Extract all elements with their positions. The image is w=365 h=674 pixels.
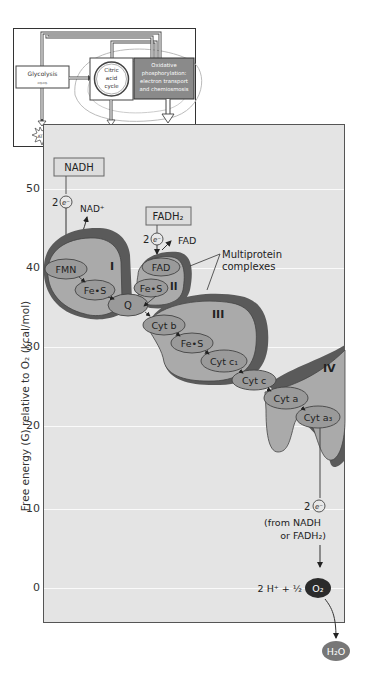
svg-text:I: I <box>110 260 114 273</box>
svg-text:e⁻: e⁻ <box>62 199 70 207</box>
svg-text:Fe•S: Fe•S <box>181 338 203 349</box>
from-label-line2: or FADH₂) <box>280 530 326 541</box>
svg-text:Q: Q <box>124 300 132 311</box>
multiprotein-label-line1: Multiprotein <box>222 249 282 260</box>
svg-text:FAD: FAD <box>178 235 196 246</box>
svg-text:II: II <box>170 281 177 292</box>
svg-text:NADH: NADH <box>64 162 94 173</box>
electron-transport-chain: NADH 2 e⁻ NAD⁺ I FMN Fe•S FADH₂ 2 e⁻ FAD… <box>0 0 365 674</box>
oxygen-equation: 2 H⁺ + ½ <box>258 583 302 594</box>
svg-text:e⁻: e⁻ <box>315 503 323 511</box>
svg-text:FADH₂: FADH₂ <box>153 211 184 222</box>
svg-text:2: 2 <box>304 501 310 512</box>
svg-text:Cyt c₁: Cyt c₁ <box>210 356 238 367</box>
svg-text:Cyt b: Cyt b <box>151 320 176 331</box>
svg-text:2: 2 <box>52 197 58 208</box>
svg-text:FAD: FAD <box>152 262 170 273</box>
svg-text:NAD⁺: NAD⁺ <box>80 204 105 214</box>
svg-text:Cyt a₃: Cyt a₃ <box>304 412 333 423</box>
svg-text:O₂: O₂ <box>312 583 323 594</box>
svg-text:Cyt c: Cyt c <box>242 375 266 386</box>
svg-text:III: III <box>212 308 224 321</box>
svg-text:H₂O: H₂O <box>327 646 345 657</box>
from-label-line1: (from NADH <box>264 517 321 528</box>
multiprotein-label-line2: complexes <box>222 261 275 272</box>
svg-text:e⁻: e⁻ <box>153 236 161 244</box>
svg-text:2: 2 <box>143 234 149 245</box>
svg-text:Fe•S: Fe•S <box>140 283 162 294</box>
svg-text:IV: IV <box>323 362 336 375</box>
svg-text:Fe•S: Fe•S <box>84 285 106 296</box>
svg-text:FMN: FMN <box>56 264 77 275</box>
svg-text:Cyt a: Cyt a <box>274 393 299 404</box>
